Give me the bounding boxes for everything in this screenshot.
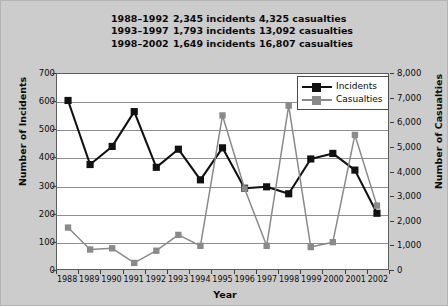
data-point-marker (197, 243, 203, 249)
summary-period: 1993–1997 (111, 25, 173, 37)
x-axis-tick (300, 270, 301, 274)
summary-row: 1998–20021,649 incidents16,807 casualtie… (111, 38, 359, 50)
data-point-marker (219, 144, 226, 151)
legend-label: Casualties (336, 94, 382, 105)
data-point-marker (153, 164, 160, 171)
x-axis-title: Year (1, 289, 448, 300)
x-axis-tick (123, 270, 124, 274)
data-point-marker (374, 202, 380, 208)
data-point-marker (351, 167, 358, 174)
y2-axis-tick (390, 73, 394, 74)
summary-row: 1988–19922,345 incidents4,325 casualties (111, 13, 359, 25)
data-point-marker (241, 185, 247, 191)
y2-axis-tick (390, 147, 394, 148)
y2-axis-tick (390, 221, 394, 222)
y-axis-tick (52, 129, 56, 130)
y-axis-tick-label: 300 (9, 181, 55, 191)
x-axis-tick-label: 2002 (361, 275, 395, 284)
y-axis-tick (52, 101, 56, 102)
summary-casualties: 13,092 casualties (259, 25, 359, 37)
x-axis-tick (189, 270, 190, 274)
y2-axis-tick-label: 1,000 (397, 240, 445, 250)
data-point-marker (263, 183, 270, 190)
y2-axis-tick-label: 2,000 (397, 216, 445, 226)
legend-label: Incidents (336, 81, 377, 92)
summary-incidents: 1,793 incidents (173, 25, 259, 37)
x-axis-tick (256, 270, 257, 274)
y2-axis-tick-label: 5,000 (397, 142, 445, 152)
chart-screenshot: 1988–19922,345 incidents4,325 casualties… (0, 0, 448, 306)
y2-axis-tick-label: 3,000 (397, 191, 445, 201)
y2-axis-tick (390, 270, 394, 271)
y-axis-tick-label: 400 (9, 152, 55, 162)
y-axis-tick (52, 157, 56, 158)
chart-legend: IncidentsCasualties (297, 76, 389, 110)
y2-axis-tick-label: 6,000 (397, 117, 445, 127)
data-point-marker (87, 246, 93, 252)
y2-axis-tick (390, 122, 394, 123)
x-axis-tick (234, 270, 235, 274)
summary-period: 1998–2002 (111, 38, 173, 50)
legend-marker (312, 83, 321, 92)
y2-axis-tick (390, 98, 394, 99)
x-axis-tick (167, 270, 168, 274)
data-point-marker (307, 155, 314, 162)
y-axis-tick-label: 600 (9, 96, 55, 106)
y-axis-tick (52, 242, 56, 243)
data-point-marker (65, 224, 71, 230)
data-point-marker (286, 103, 292, 109)
data-point-marker (329, 150, 336, 157)
data-point-marker (153, 248, 159, 254)
data-point-marker (64, 97, 71, 104)
y-axis-tick (52, 186, 56, 187)
summary-period: 1988–1992 (111, 13, 173, 25)
y2-axis-tick-label: 4,000 (397, 167, 445, 177)
data-point-marker (109, 245, 115, 251)
y2-axis-title: Number of Casualties (433, 67, 444, 197)
data-point-marker (330, 239, 336, 245)
y-axis-tick (52, 73, 56, 74)
y-axis-tick-label: 700 (9, 68, 55, 78)
data-point-marker (219, 112, 225, 118)
y2-axis-tick-label: 8,000 (397, 68, 445, 78)
x-axis-tick (211, 270, 212, 274)
x-axis-tick (345, 270, 346, 274)
data-point-marker (175, 146, 182, 153)
summary-incidents: 2,345 incidents (173, 13, 259, 25)
x-axis-tick (322, 270, 323, 274)
legend-item: Casualties (302, 93, 382, 106)
y-axis-tick-label: 200 (9, 209, 55, 219)
y2-axis-tick (390, 245, 394, 246)
data-point-marker (109, 143, 116, 150)
y-axis-tick-label: 500 (9, 124, 55, 134)
data-point-marker (131, 108, 138, 115)
data-point-marker (352, 132, 358, 138)
data-point-marker (263, 243, 269, 249)
legend-marker (312, 96, 321, 105)
x-axis-tick (100, 270, 101, 274)
x-axis-tick (56, 270, 57, 274)
y-axis-tick (52, 214, 56, 215)
data-point-marker (285, 190, 292, 197)
data-point-marker (87, 161, 94, 168)
y2-axis-tick-label: 0 (397, 265, 445, 275)
y2-axis-tick (390, 196, 394, 197)
summary-casualties: 4,325 casualties (259, 13, 359, 25)
summary-casualties: 16,807 casualties (259, 38, 359, 50)
summary-incidents: 1,649 incidents (173, 38, 259, 50)
legend-swatch-icon (302, 81, 332, 92)
y2-axis-tick-label: 7,000 (397, 93, 445, 103)
data-point-marker (197, 176, 204, 183)
y2-axis-tick (390, 172, 394, 173)
summary-table: 1988–19922,345 incidents4,325 casualties… (111, 13, 359, 50)
x-axis-tick (78, 270, 79, 274)
summary-row: 1993–19971,793 incidents13,092 casualtie… (111, 25, 359, 37)
x-axis-tick (389, 270, 390, 274)
x-axis-tick (367, 270, 368, 274)
data-point-marker (308, 244, 314, 250)
legend-item: Incidents (302, 80, 382, 93)
data-point-marker (131, 260, 137, 266)
x-axis-tick (278, 270, 279, 274)
data-point-marker (175, 232, 181, 238)
legend-swatch-icon (302, 94, 332, 105)
